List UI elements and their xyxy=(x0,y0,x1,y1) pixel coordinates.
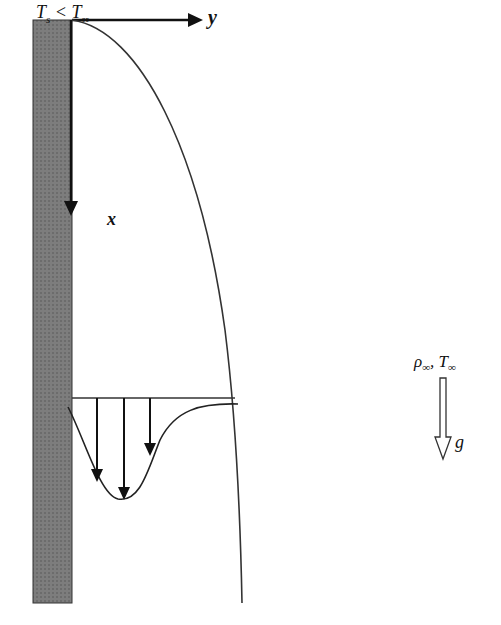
velocity-arrows xyxy=(91,398,156,500)
surface-condition-label: Ts < T∞ xyxy=(36,2,89,25)
gravity-label: g xyxy=(455,432,464,453)
t-ambient-symbol: T xyxy=(439,352,448,371)
vertical-plate xyxy=(33,20,72,603)
velocity-profile-curve xyxy=(68,404,238,499)
gravity-arrow-icon xyxy=(435,378,451,459)
y-axis-arrow xyxy=(72,13,203,27)
y-axis-label: y xyxy=(208,6,217,29)
infinity-subscript: ∞ xyxy=(81,13,89,25)
less-than: < xyxy=(50,2,71,22)
rho-subscript: ∞ xyxy=(422,361,430,373)
separator: , xyxy=(430,352,439,371)
ambient-condition-label: ρ∞, T∞ xyxy=(414,352,456,373)
t-ambient-subscript: ∞ xyxy=(448,361,456,373)
diagram-canvas xyxy=(0,0,501,625)
x-axis-label: x xyxy=(107,209,116,230)
t-symbol-2: T xyxy=(71,2,81,22)
rho-symbol: ρ xyxy=(414,352,422,371)
boundary-layer-edge xyxy=(72,20,242,603)
t-symbol: T xyxy=(36,2,46,22)
